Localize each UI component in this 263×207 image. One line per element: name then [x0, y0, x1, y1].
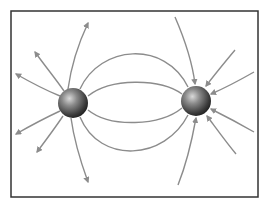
field-line — [88, 82, 182, 96]
field-line — [80, 115, 188, 151]
field-line-arrow-in — [211, 109, 254, 132]
field-line-arrow-in — [175, 17, 195, 84]
positive-charge-sphere — [58, 88, 88, 118]
field-line — [88, 108, 182, 123]
field-line-arrow-in — [178, 118, 196, 185]
field-line-arrow-out — [35, 52, 64, 91]
diagram-frame — [11, 11, 258, 197]
field-line-arrow-out — [37, 116, 63, 152]
negative-charge-sphere — [181, 86, 211, 116]
field-line — [80, 54, 188, 89]
field-line-arrow-in — [207, 116, 236, 154]
field-line-arrow-in — [211, 72, 254, 94]
electric-field-diagram — [0, 0, 263, 207]
field-line-arrow-in — [206, 50, 235, 86]
field-lines-connecting — [80, 54, 188, 151]
